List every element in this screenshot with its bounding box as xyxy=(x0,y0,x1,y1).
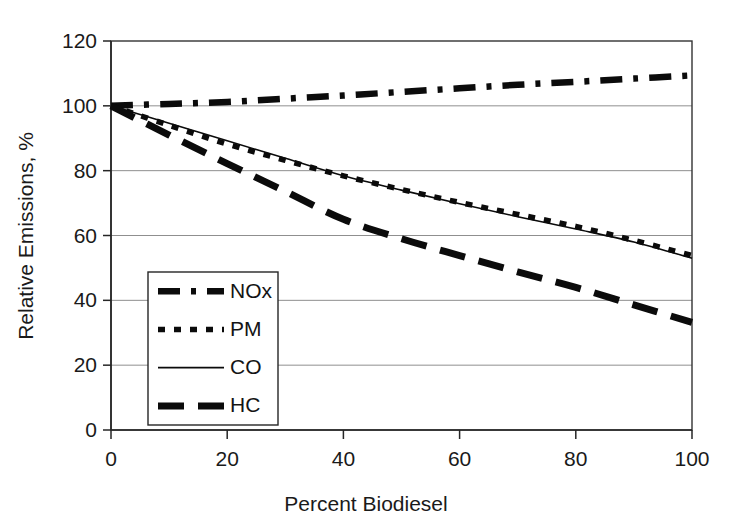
y-tick-label-80: 80 xyxy=(74,159,97,182)
x-tick-label-80: 80 xyxy=(564,447,587,470)
y-tick-label-0: 0 xyxy=(85,418,97,441)
y-tick-label-20: 20 xyxy=(74,353,97,376)
x-tick-label-100: 100 xyxy=(674,447,709,470)
x-tick-label-20: 20 xyxy=(216,447,239,470)
legend-label-nox: NOx xyxy=(230,279,273,302)
x-tick-label-0: 0 xyxy=(105,447,117,470)
legend-label-hc: HC xyxy=(230,393,260,416)
x-tick-label-40: 40 xyxy=(332,447,355,470)
emissions-line-chart: 020406080100120 020406080100 Percent Bio… xyxy=(0,0,732,529)
x-axis-title: Percent Biodiesel xyxy=(284,492,447,515)
y-tick-label-40: 40 xyxy=(74,288,97,311)
y-axis-title: Relative Emissions, % xyxy=(14,132,37,340)
chart-legend: NOxPMCOHC xyxy=(148,272,278,425)
legend-label-pm: PM xyxy=(230,317,262,340)
chart-container: 020406080100120 020406080100 Percent Bio… xyxy=(0,0,732,529)
x-tick-label-60: 60 xyxy=(448,447,471,470)
y-tick-label-120: 120 xyxy=(62,29,97,52)
y-tick-label-100: 100 xyxy=(62,94,97,117)
legend-label-co: CO xyxy=(230,355,262,378)
y-tick-label-60: 60 xyxy=(74,224,97,247)
